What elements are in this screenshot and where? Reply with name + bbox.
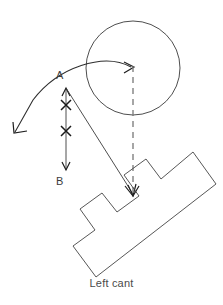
left-cant-diagram: A B Left cant bbox=[0, 0, 223, 305]
figure-caption: Left cant bbox=[0, 277, 223, 289]
castellated-block bbox=[73, 152, 216, 277]
diagram-canvas: A B bbox=[0, 0, 223, 305]
label-point-a: A bbox=[56, 69, 64, 81]
leader-line bbox=[66, 88, 133, 194]
label-point-b: B bbox=[56, 175, 63, 187]
rotation-arc bbox=[15, 61, 131, 132]
